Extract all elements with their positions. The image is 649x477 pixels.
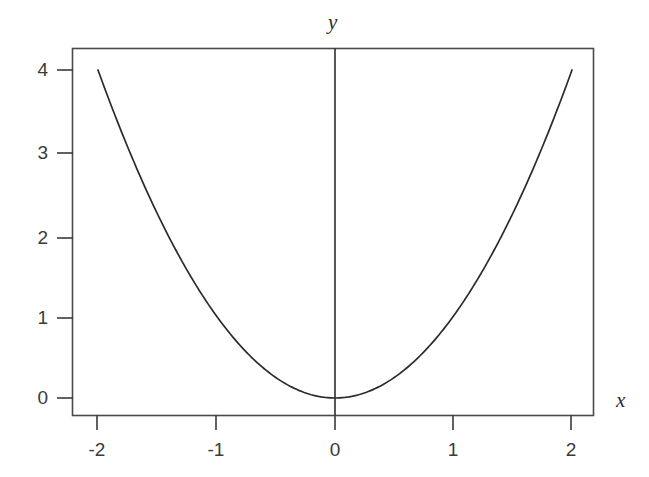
y-axis-title: y [328, 12, 337, 33]
y-tick-marks [57, 70, 73, 398]
x-tick-label-neg2: -2 [67, 440, 127, 459]
x-tick-label-0: 0 [305, 440, 365, 459]
x-tick-marks [97, 415, 571, 430]
y-tick-label-2: 2 [22, 228, 48, 247]
y-tick-label-1: 1 [22, 308, 48, 327]
x-tick-label-1: 1 [423, 440, 483, 459]
x-tick-label-2: 2 [541, 440, 601, 459]
y-tick-label-4: 4 [22, 60, 48, 79]
y-tick-label-0: 0 [22, 388, 48, 407]
x-axis-title: x [616, 390, 625, 411]
y-tick-label-3: 3 [22, 143, 48, 162]
chart-figure: 4 3 2 1 0 -2 -1 0 1 2 y x [0, 0, 649, 477]
x-tick-label-neg1: -1 [186, 440, 246, 459]
plot-frame [73, 49, 594, 416]
plot-canvas [0, 0, 649, 477]
